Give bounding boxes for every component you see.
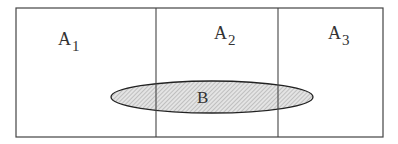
event-b-ellipse: [111, 81, 313, 113]
event-b-label: B: [197, 88, 208, 107]
partition-diagram: A1 A2 A3 B: [0, 0, 398, 144]
